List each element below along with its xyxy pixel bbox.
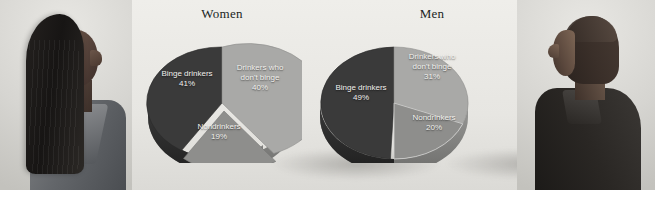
pie-title-women: Women [132, 6, 312, 22]
pie-women-svg [142, 27, 302, 163]
woman-braided-hair [26, 14, 84, 174]
pie-chart-men: Binge drinkers 49% Drinkers who don't bi… [314, 27, 474, 163]
pie-title-men: Men [342, 6, 522, 22]
woman-nose [90, 50, 102, 66]
woman-profile-photo [0, 0, 132, 190]
alcohol-use-pie-chart-figure: Women Men [0, 0, 655, 202]
man-nose [548, 44, 559, 58]
chart-canvas: Women Men [132, 0, 517, 190]
pie-men-svg [314, 27, 474, 163]
man-profile-photo [517, 0, 655, 190]
pie-chart-women: Binge drinkers 41% Drinkers who don't bi… [142, 27, 302, 163]
